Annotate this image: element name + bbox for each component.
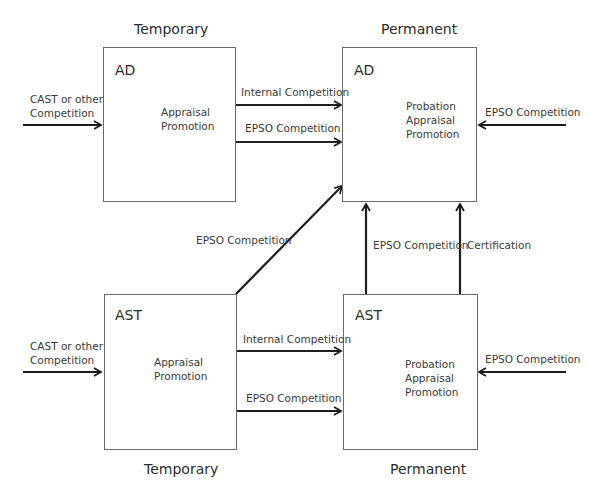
box-description: Appraisal Promotion — [161, 105, 214, 133]
heading-permanent-bottom: Permanent — [390, 461, 466, 477]
label-ad-internal: Internal Competition — [241, 85, 349, 99]
box-line: Probation — [406, 99, 459, 113]
label-cast-to-ad-temp: CAST or other Competition — [30, 92, 103, 120]
box-description: Probation Appraisal Promotion — [406, 99, 459, 141]
label-ad-epso: EPSO Competition — [245, 121, 341, 135]
label-line: CAST or other — [30, 92, 103, 106]
label-ast-temp-to-ad-perm: EPSO Competition — [196, 233, 292, 247]
box-ast-permanent: AST Probation Appraisal Promotion — [343, 294, 478, 450]
label-external-to-ast-perm: EPSO Competition — [485, 352, 581, 366]
heading-temporary-top: Temporary — [134, 21, 208, 37]
label-ast-perm-to-ad-perm-epso: EPSO Competition — [373, 238, 469, 252]
box-description: Appraisal Promotion — [154, 355, 207, 383]
heading-temporary-bottom: Temporary — [144, 461, 218, 477]
box-line: Promotion — [406, 127, 459, 141]
box-ad-temporary: AD Appraisal Promotion — [103, 47, 236, 202]
box-title: AST — [355, 307, 382, 323]
label-line: Competition — [30, 106, 103, 120]
box-line: Probation — [405, 357, 458, 371]
box-line: Appraisal — [161, 105, 214, 119]
box-line: Appraisal — [405, 371, 458, 385]
label-line: Competition — [30, 353, 103, 367]
box-title: AD — [354, 62, 374, 78]
box-ast-temporary: AST Appraisal Promotion — [104, 294, 237, 450]
box-line: Promotion — [161, 119, 214, 133]
label-line: CAST or other — [30, 339, 103, 353]
label-ast-epso: EPSO Competition — [246, 391, 342, 405]
heading-permanent-top: Permanent — [381, 21, 457, 37]
label-ast-internal: Internal Competition — [243, 332, 351, 346]
box-description: Probation Appraisal Promotion — [405, 357, 458, 399]
box-line: Promotion — [154, 369, 207, 383]
label-external-to-ad-perm: EPSO Competition — [485, 105, 581, 119]
box-line: Appraisal — [154, 355, 207, 369]
label-cast-to-ast-temp: CAST or other Competition — [30, 339, 103, 367]
box-ad-permanent: AD Probation Appraisal Promotion — [342, 47, 477, 202]
box-line: Appraisal — [406, 113, 459, 127]
label-certification: Certification — [467, 238, 531, 252]
box-title: AD — [115, 62, 135, 78]
box-line: Promotion — [405, 385, 458, 399]
box-title: AST — [115, 307, 142, 323]
